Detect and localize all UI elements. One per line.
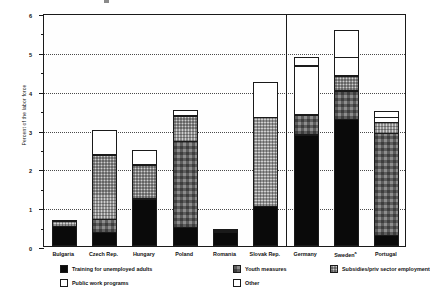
bar-segment-training	[132, 199, 157, 246]
x-axis-label-hungary: Hungary	[124, 251, 164, 257]
scan-artifact	[104, 0, 109, 3]
legend-item-subsidies[interactable]: Subsidies/priv sector employment	[330, 265, 430, 273]
legend-label-subsidies: Subsidies/priv sector employment	[342, 266, 430, 272]
y-axis-title: Percent of the labor force	[21, 45, 27, 185]
bar-segment-training	[253, 206, 278, 246]
bar-segment-publicwork	[253, 82, 278, 119]
bar-segment-training	[173, 227, 198, 246]
bar-segment-publicwork	[334, 57, 359, 76]
legend-item-youth[interactable]: Youth measures	[233, 265, 287, 273]
x-axis-label-sweden: Swedena	[325, 251, 365, 258]
legend-item-publicwork[interactable]: Public work programs	[60, 279, 129, 287]
bar-segment-training	[334, 119, 359, 246]
y-axis-tick: 5	[39, 54, 44, 55]
legend-item-training[interactable]: Training for unemployed adults	[60, 265, 152, 273]
bar-segment-youth	[374, 133, 399, 236]
y-axis-tick-label: 2	[29, 168, 32, 174]
bar-sweden	[334, 27, 359, 246]
y-axis-minor-tick	[41, 229, 45, 230]
y-axis-tick-label: 4	[29, 91, 32, 97]
bar-segment-youth	[294, 115, 319, 136]
bar-segment-subsidies	[253, 117, 278, 206]
bar-segment-youth	[92, 219, 117, 233]
x-axis-label-slovak-rep: Slovak Rep.	[245, 251, 285, 257]
legend-swatch-other	[233, 279, 241, 287]
x-axis-label-czech-rep: Czech Rep.	[83, 251, 123, 257]
bar-segment-youth	[173, 141, 198, 228]
bar-segment-subsidies	[132, 165, 157, 200]
legend-item-other[interactable]: Other	[233, 279, 259, 287]
y-axis-minor-tick	[41, 112, 45, 113]
y-axis-minor-tick	[41, 151, 45, 152]
y-axis-tick-label: 6	[29, 13, 32, 19]
y-axis-tick: 4	[39, 93, 44, 94]
bar-germany	[294, 55, 319, 246]
bar-romania	[213, 229, 238, 246]
bar-segment-youth	[334, 91, 359, 120]
bar-czech-rep	[92, 128, 117, 246]
bar-segment-publicwork	[294, 66, 319, 116]
legend-label-publicwork: Public work programs	[72, 280, 129, 286]
legend-swatch-subsidies	[330, 265, 338, 273]
y-axis-tick: 3	[39, 132, 44, 133]
y-axis-minor-tick	[41, 73, 45, 74]
bar-segment-training	[374, 235, 399, 246]
bar-segment-publicwork	[92, 130, 117, 156]
bar-segment-other	[334, 30, 359, 58]
x-axis-label-germany: Germany	[285, 251, 325, 257]
y-axis-tick-label: 5	[29, 52, 32, 58]
bar-segment-subsidies	[334, 76, 359, 92]
legend-swatch-youth	[233, 265, 241, 273]
legend-label-other: Other	[245, 280, 259, 286]
bar-hungary	[132, 149, 157, 246]
bar-segment-training	[294, 135, 319, 246]
bar-segment-training	[52, 226, 77, 246]
bar-segment-training	[213, 232, 238, 246]
bar-portugal	[374, 108, 399, 246]
bar-bulgaria	[52, 220, 77, 246]
y-axis-minor-tick	[41, 34, 45, 35]
bar-slovak-rep	[253, 80, 278, 246]
y-axis-tick: 0	[39, 248, 44, 249]
y-axis-tick-label: 0	[29, 246, 32, 252]
y-axis-tick: 6	[39, 15, 44, 16]
y-axis-minor-tick	[41, 190, 45, 191]
bar-segment-training	[92, 232, 117, 246]
bar-segment-subsidies	[173, 116, 198, 142]
plot-area: 0123456	[43, 14, 406, 247]
legend-swatch-training	[60, 265, 68, 273]
legend-label-youth: Youth measures	[245, 266, 287, 272]
x-axis-label-romania: Romania	[204, 251, 244, 257]
y-axis-tick-label: 1	[29, 207, 32, 213]
legend-swatch-publicwork	[60, 279, 68, 287]
y-axis-tick-label: 3	[29, 130, 32, 136]
y-axis-tick: 2	[39, 170, 44, 171]
x-axis-label-bulgaria: Bulgaria	[43, 251, 83, 257]
bar-segment-publicwork	[132, 150, 157, 166]
transition-economies-divider	[286, 15, 287, 246]
legend-label-training: Training for unemployed adults	[72, 266, 152, 272]
x-axis-label-portugal: Portugal	[366, 251, 406, 257]
bar-segment-subsidies	[374, 122, 399, 133]
bar-poland	[173, 108, 198, 246]
y-axis-tick: 1	[39, 209, 44, 210]
bar-segment-subsidies	[92, 155, 117, 220]
chart-legend: Training for unemployed adultsYouth meas…	[43, 265, 415, 293]
x-axis-label-poland: Poland	[164, 251, 204, 257]
